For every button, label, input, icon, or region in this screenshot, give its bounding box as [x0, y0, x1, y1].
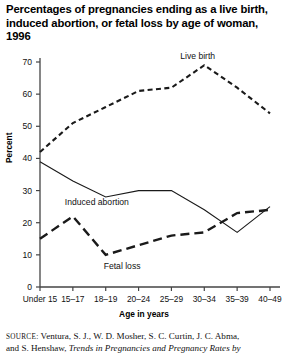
series-line-live-birth	[40, 65, 270, 152]
y-tick-label: 10	[10, 250, 32, 260]
y-tick-label: 50	[10, 121, 32, 131]
chart-svg	[0, 48, 288, 298]
source-line-1: Ventura, S. J., W. D. Mosher, S. C. Curt…	[38, 331, 239, 341]
source-note: SOURCE: Ventura, S. J., W. D. Mosher, S.…	[6, 331, 288, 353]
source-prefix: SOURCE:	[6, 333, 38, 341]
x-axis-label: Age in years	[0, 309, 288, 319]
y-tick-label: 30	[10, 186, 32, 196]
series-label-fetal-loss: Fetal loss	[104, 261, 141, 271]
source-line-2-italic: Trends in Pregnancies and Pregnancy Rate…	[69, 343, 241, 353]
data-series-group	[40, 65, 270, 255]
plot-area	[0, 48, 288, 298]
series-label-induced-abortion: Induced abortion	[65, 197, 129, 207]
figure-title: Percentages of pregnancies ending as a l…	[6, 3, 284, 44]
y-tick-label: 40	[10, 153, 32, 163]
y-tick-label: 20	[10, 218, 32, 228]
y-tick-label: 0	[10, 282, 32, 292]
series-label-live-birth: Live birth	[180, 51, 215, 61]
series-line-fetal-loss	[40, 210, 270, 255]
source-line-2-plain: and S. Henshaw,	[6, 343, 69, 353]
y-tick-label: 60	[10, 89, 32, 99]
y-tick-label: 70	[10, 57, 32, 67]
x-tick-label: 40–49	[242, 294, 298, 304]
